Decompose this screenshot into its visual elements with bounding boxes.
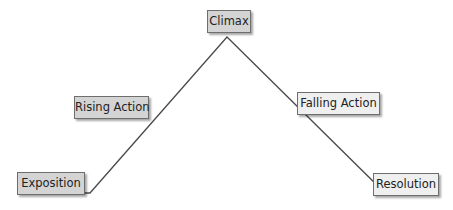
exposition-label: Exposition [17,172,85,195]
climax-label: Climax [207,10,251,33]
resolution-label: Resolution [373,173,439,196]
rising-action-label: Rising Action [74,96,149,119]
falling-action-label: Falling Action [297,92,380,115]
